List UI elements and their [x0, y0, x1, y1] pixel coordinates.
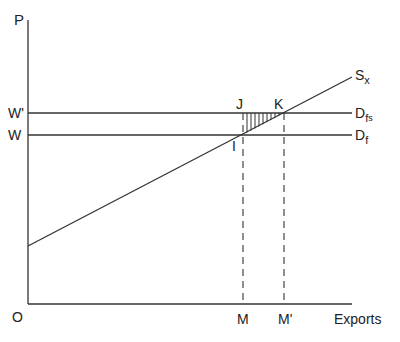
- diagram-canvas: [0, 0, 400, 342]
- x-axis-label: Exports: [334, 312, 381, 326]
- df-label-main: D: [355, 127, 365, 143]
- w-prime-label: W': [8, 106, 24, 120]
- origin-label: O: [12, 310, 23, 324]
- point-i-label: I: [232, 139, 236, 153]
- supply-label: Sx: [355, 68, 370, 82]
- y-axis-label: P: [14, 12, 24, 27]
- supply-label-main: S: [355, 67, 364, 83]
- dfs-label-main: D: [355, 105, 365, 121]
- point-j-label: J: [236, 97, 243, 111]
- x-tick-m: M: [237, 312, 249, 326]
- supply-label-sub: x: [364, 74, 370, 86]
- df-label: Df: [355, 128, 368, 142]
- supply-curve-sx: [28, 77, 352, 246]
- dfs-label-subsub: s: [368, 113, 373, 123]
- df-label-sub: f: [365, 134, 368, 146]
- x-tick-m-prime: M': [278, 312, 292, 326]
- point-k-label: K: [274, 97, 283, 111]
- w-label: W: [8, 128, 21, 142]
- dfs-label: Dfs: [355, 106, 373, 120]
